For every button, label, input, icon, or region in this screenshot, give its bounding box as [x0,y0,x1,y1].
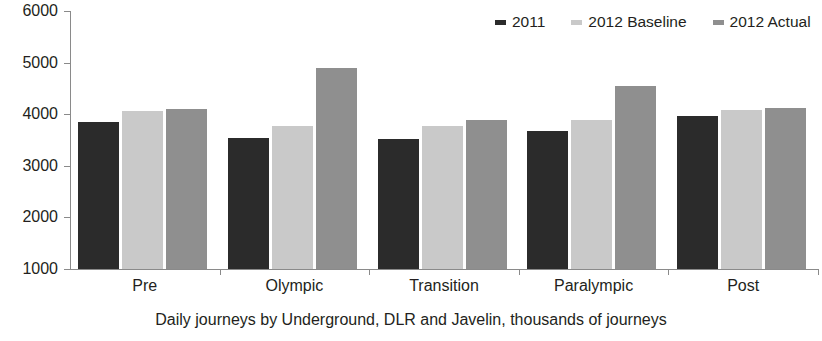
bar[interactable] [228,138,269,269]
bar[interactable] [166,109,207,269]
y-axis-tick-label: 2000 [22,209,58,225]
bar[interactable] [378,139,419,269]
bar-group [228,11,357,269]
bar[interactable] [78,122,119,269]
y-axis-tick-labels: 100020003000400050006000 [0,11,58,269]
x-axis-tick-mark [519,269,520,275]
plot-area [70,11,818,269]
bar[interactable] [466,120,507,269]
x-axis-tick-mark [369,269,370,275]
bar[interactable] [122,111,163,269]
y-axis-tick-mark [64,217,70,218]
y-axis-tick-mark [64,114,70,115]
bar[interactable] [571,120,612,269]
y-axis-tick-mark [64,269,70,270]
y-axis-tick-label: 4000 [22,106,58,122]
bar[interactable] [677,116,718,269]
bar-group [677,11,806,269]
y-axis-tick-mark [64,63,70,64]
bar[interactable] [272,126,313,269]
x-axis-category-label: Post [668,278,818,294]
x-axis-tick-mark [220,269,221,275]
y-axis-tick-label: 5000 [22,55,58,71]
x-axis-line [70,269,818,270]
bar[interactable] [765,108,806,269]
y-axis-tick-mark [64,166,70,167]
chart-page: 20112012 Baseline2012 Actual 10002000300… [0,0,822,341]
bars-layer [70,11,818,269]
bar-group [78,11,207,269]
x-axis-category-labels: PreOlympicTransitionParalympicPost [70,278,818,300]
y-axis-tick-label: 3000 [22,158,58,174]
y-axis-tick-label: 1000 [22,261,58,277]
y-axis-tick-label: 6000 [22,3,58,19]
bar-group [527,11,656,269]
bar-group [378,11,507,269]
x-axis-tick-mark [668,269,669,275]
x-axis-category-label: Transition [369,278,519,294]
x-axis-category-label: Pre [70,278,220,294]
x-axis-tick-mark [818,269,819,275]
bar[interactable] [527,131,568,269]
x-axis-category-label: Paralympic [519,278,669,294]
x-axis-category-label: Olympic [220,278,370,294]
y-axis-tick-mark [64,11,70,12]
chart-caption: Daily journeys by Underground, DLR and J… [0,312,822,328]
bar[interactable] [422,126,463,269]
bar[interactable] [721,110,762,269]
bar[interactable] [316,68,357,269]
bar[interactable] [615,86,656,269]
